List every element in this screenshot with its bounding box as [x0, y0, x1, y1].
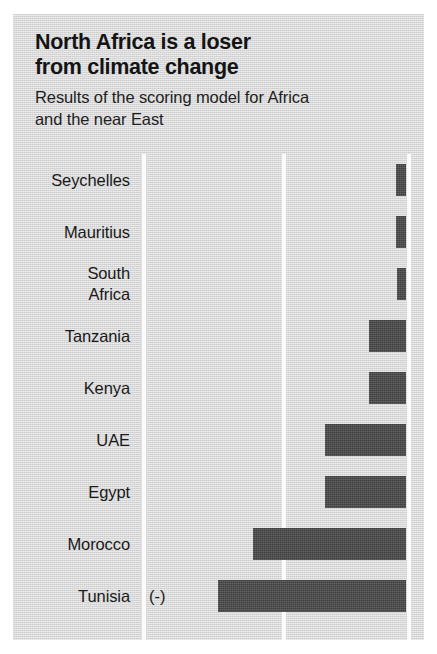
bar-kenya [369, 372, 406, 404]
bar-row: Egypt [13, 466, 424, 518]
bar-tunisia [218, 580, 406, 612]
bar-row: Tanzania [13, 310, 424, 362]
bar-label-kenya: Kenya [13, 362, 130, 414]
chart-panel: North Africa is a loser from climate cha… [13, 14, 424, 640]
bar-note-tunisia: (-) [149, 570, 165, 622]
bar-row: Morocco [13, 518, 424, 570]
bar-tanzania [369, 320, 406, 352]
bar-label-tanzania: Tanzania [13, 310, 130, 362]
bar-uae [325, 424, 406, 456]
bar-row: Mauritius [13, 206, 424, 258]
bar-label-uae: UAE [13, 414, 130, 466]
bar-label-seychelles: Seychelles [13, 154, 130, 206]
bar-label-south-africa: South Africa [13, 258, 130, 310]
bar-row: UAE [13, 414, 424, 466]
bar-egypt [325, 476, 406, 508]
bar-rows: SeychellesMauritiusSouth AfricaTanzaniaK… [13, 154, 424, 640]
bar-chart: SeychellesMauritiusSouth AfricaTanzaniaK… [13, 154, 424, 640]
bar-row: Kenya [13, 362, 424, 414]
bar-morocco [253, 528, 406, 560]
bar-label-tunisia: Tunisia [13, 570, 130, 622]
bar-row: South Africa [13, 258, 424, 310]
bar-mauritius [396, 216, 406, 248]
bar-label-egypt: Egypt [13, 466, 130, 518]
page-title: North Africa is a loser from climate cha… [35, 30, 405, 80]
bar-seychelles [396, 164, 406, 196]
page-subtitle: Results of the scoring model for Africa … [35, 86, 405, 130]
bar-label-morocco: Morocco [13, 518, 130, 570]
chart-header: North Africa is a loser from climate cha… [35, 30, 405, 130]
bar-row: Seychelles [13, 154, 424, 206]
bar-label-mauritius: Mauritius [13, 206, 130, 258]
bar-south-africa [397, 268, 406, 300]
bar-row: Tunisia(-) [13, 570, 424, 622]
